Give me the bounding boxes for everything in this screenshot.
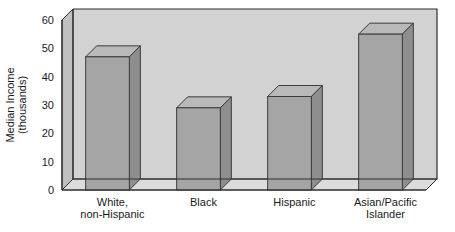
bar-side-face-0 bbox=[129, 46, 140, 190]
bar-side-face-2 bbox=[311, 86, 322, 191]
y-axis-title-line2: (thousands) bbox=[16, 76, 28, 134]
y-tick-label-20: 20 bbox=[42, 127, 54, 139]
x-category-label-2: Hispanic bbox=[273, 196, 316, 208]
bar-0 bbox=[86, 46, 141, 190]
y-tick-label-0: 0 bbox=[48, 184, 54, 196]
y-axis-title: Median Income(thousands) bbox=[4, 67, 28, 142]
bar-front-face-2 bbox=[268, 97, 312, 191]
bar-front-face-0 bbox=[86, 57, 130, 190]
bar-3 bbox=[359, 23, 414, 190]
y-tick-label-60: 60 bbox=[42, 14, 54, 26]
y-axis-title-line1: Median Income bbox=[4, 67, 16, 142]
bar-1 bbox=[177, 97, 232, 190]
y-tick-label-40: 40 bbox=[42, 71, 54, 83]
bar-front-face-3 bbox=[359, 34, 403, 190]
bar-side-face-3 bbox=[402, 23, 413, 190]
plot-left-wall bbox=[62, 9, 73, 190]
bar-2 bbox=[268, 86, 323, 191]
y-tick-label-50: 50 bbox=[42, 42, 54, 54]
x-category-label-0: White, bbox=[97, 196, 128, 208]
y-tick-label-10: 10 bbox=[42, 156, 54, 168]
x-category-label-0-line2: non-Hispanic bbox=[80, 208, 145, 220]
chart-canvas: 0102030405060White,non-HispanicBlackHisp… bbox=[0, 0, 455, 232]
x-category-label-3: Asian/Pacific bbox=[354, 196, 417, 208]
bar-side-face-1 bbox=[220, 97, 231, 190]
x-category-label-3-line2: Islander bbox=[366, 208, 405, 220]
bar-front-face-1 bbox=[177, 108, 221, 190]
bar-chart: 0102030405060White,non-HispanicBlackHisp… bbox=[0, 0, 455, 232]
x-category-label-1: Black bbox=[190, 196, 217, 208]
y-tick-label-30: 30 bbox=[42, 99, 54, 111]
